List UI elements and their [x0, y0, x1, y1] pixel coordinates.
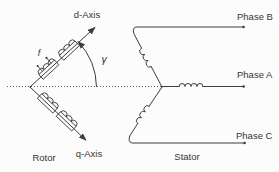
q-axis-arrow — [30, 87, 86, 140]
phase-c-lead — [149, 87, 162, 106]
phase-b-lead — [151, 67, 162, 87]
q-axis-coil-1 — [38, 91, 60, 113]
d-axis-label: d-Axis — [74, 9, 101, 20]
q-axis-coil-2 — [56, 109, 78, 131]
phase-c-coil — [136, 106, 149, 124]
stator-label: Stator — [174, 151, 199, 162]
d-axis-damper-coil — [57, 38, 79, 60]
phase-b-label: Phase B — [237, 11, 273, 22]
field-terminal-dot-2 — [45, 57, 47, 59]
phase-c-line — [129, 124, 244, 143]
field-terminal-dot-1 — [37, 65, 39, 67]
synchronous-machine-diagram: d-Axis q-Axis γ f Rotor Stator Phase B P… — [0, 0, 279, 172]
phase-a-label: Phase A — [237, 69, 273, 80]
field-winding-label: f — [38, 48, 42, 58]
phase-a-coil — [179, 84, 203, 87]
rotor-angle-arc — [79, 42, 97, 87]
rotor-angle-gamma-label: γ — [101, 53, 107, 65]
phase-b-line — [133, 27, 243, 48]
diagram-canvas: d-Axis q-Axis γ f Rotor Stator Phase B P… — [0, 0, 279, 172]
q-axis-label: q-Axis — [76, 148, 103, 159]
rotor-label: Rotor — [32, 152, 55, 163]
phase-a-terminal-dot — [242, 85, 245, 88]
phase-c-terminal-dot — [243, 142, 246, 145]
phase-b-coil — [140, 48, 152, 67]
phase-c-label: Phase C — [236, 130, 273, 141]
phase-b-terminal-dot — [242, 26, 245, 29]
